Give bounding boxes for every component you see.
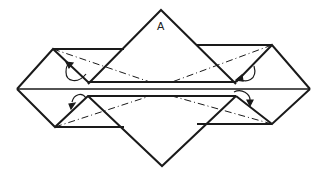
fold-line-upper-right xyxy=(172,45,272,82)
upper-left-flap xyxy=(17,49,236,89)
flap-label-a: A xyxy=(157,20,164,32)
fold-arrow-lower-right-icon xyxy=(234,91,250,100)
arrowhead-upper-right-icon xyxy=(236,75,243,81)
lower-left-flap xyxy=(17,89,236,127)
bottom-flap-outline xyxy=(88,96,236,166)
fold-line-lower-left xyxy=(55,96,150,127)
upper-right-flap xyxy=(236,45,310,89)
